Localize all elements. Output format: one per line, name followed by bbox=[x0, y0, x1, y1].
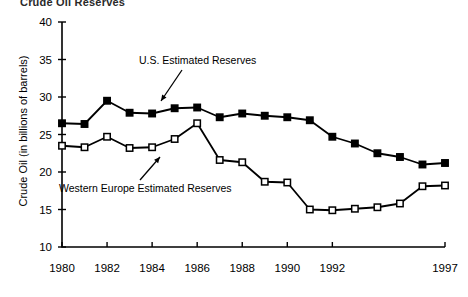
axis-tickmarks bbox=[58, 22, 445, 247]
data-series-layer bbox=[59, 98, 448, 214]
annotation-leader-lines bbox=[140, 70, 182, 180]
chart-figure: Crude Oil Reserves Crude Oil (in billion… bbox=[0, 0, 468, 297]
axis-lines bbox=[62, 22, 445, 247]
plot-canvas bbox=[0, 0, 468, 297]
